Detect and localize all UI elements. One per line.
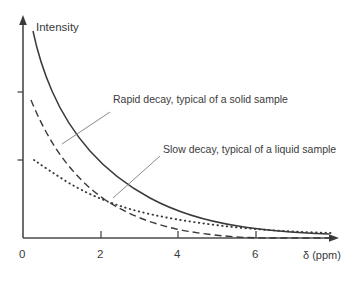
x-axis-label: δ (ppm) (303, 250, 341, 261)
leader-line-slow-decay (113, 156, 160, 198)
figure-canvas: Intensity δ (ppm) 0 2 4 6 Rapid decay, t… (0, 0, 364, 283)
decay-plot (0, 0, 364, 283)
y-axis (18, 15, 27, 238)
series-dotted-curve (34, 160, 331, 233)
x-tick-label-2: 2 (97, 249, 103, 261)
y-axis-label: Intensity (36, 22, 79, 34)
x-tick-label-6: 6 (252, 249, 258, 261)
series-solid-curve (33, 31, 329, 234)
annotation-slow-decay: Slow decay, typical of a liquid sample (163, 144, 336, 155)
x-tick-label-0: 0 (19, 249, 25, 261)
leader-line-rapid-decay (62, 112, 110, 144)
x-tick-label-4: 4 (174, 249, 180, 261)
series-dashed-curve (31, 100, 329, 238)
annotation-rapid-decay: Rapid decay, typical of a solid sample (113, 94, 288, 105)
right-arrow-icon (329, 234, 339, 242)
up-arrow-icon (19, 15, 27, 25)
